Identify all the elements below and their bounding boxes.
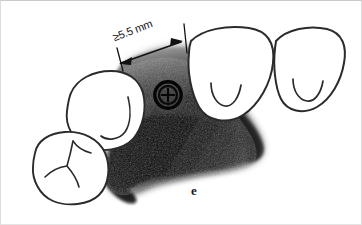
panel-letter-label: e — [191, 184, 197, 197]
figure-frame: ≥5.5 mm e — [0, 0, 362, 225]
tooth-right-outer — [274, 28, 345, 112]
tooth-right-inner — [188, 27, 273, 121]
dental-diagram-illustration — [1, 1, 362, 225]
implant-cross-section-symbol — [148, 75, 188, 115]
tooth-left-lower — [33, 132, 108, 204]
